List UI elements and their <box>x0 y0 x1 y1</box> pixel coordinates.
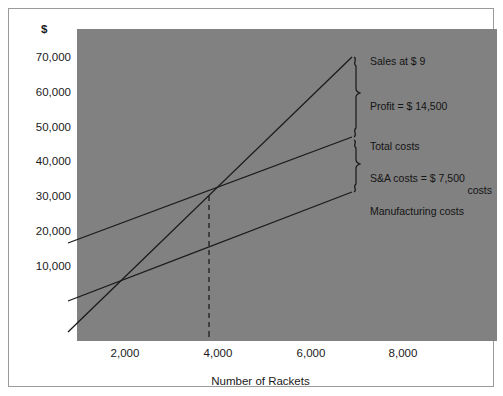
annotation-total-costs: Total costs <box>370 140 420 152</box>
y-tick-60000: 60,000 <box>36 87 71 99</box>
x-tick-8000: 8,000 <box>389 348 418 360</box>
y-tick-40000: 40,000 <box>36 156 71 168</box>
x-axis-title: Number of Rackets <box>9 375 503 387</box>
y-axis-tick-labels: 70,000 60,000 50,000 40,000 30,000 20,00… <box>9 9 71 341</box>
x-tick-4000: 4,000 <box>204 348 233 360</box>
y-tick-20000: 20,000 <box>36 226 71 238</box>
annotation-sa-costs: S&A costs = $ 7,500 <box>370 172 465 184</box>
x-tick-6000: 6,000 <box>297 348 326 360</box>
figure-frame: $ 70,000 60,000 50,000 40,000 30,000 20,… <box>8 8 494 387</box>
y-tick-30000: 30,000 <box>36 191 71 203</box>
annotation-manufacturing-costs: Manufacturing costs <box>370 205 464 217</box>
annotation-sales: Sales at $ 9 <box>370 55 425 67</box>
y-tick-10000: 10,000 <box>36 261 71 273</box>
y-tick-50000: 50,000 <box>36 122 71 134</box>
annotation-profit: Profit = $ 14,500 <box>370 100 447 112</box>
annotation-sa-costs-line2: costs <box>370 184 492 196</box>
chart-figure: $ 70,000 60,000 50,000 40,000 30,000 20,… <box>0 0 503 396</box>
x-tick-2000: 2,000 <box>111 348 140 360</box>
y-tick-70000: 70,000 <box>36 52 71 64</box>
